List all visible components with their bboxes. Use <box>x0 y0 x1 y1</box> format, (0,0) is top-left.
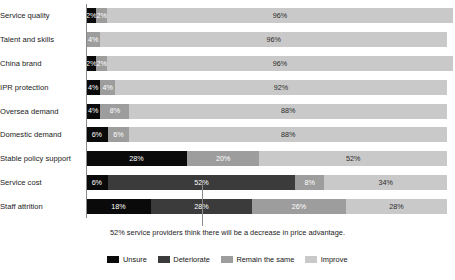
bar-segment-label: 28% <box>389 203 403 210</box>
bar-segment: 2% <box>86 56 96 71</box>
bar-segment-label: 6% <box>113 131 123 138</box>
bar-segment: 20% <box>187 151 259 166</box>
bar-segment: 96% <box>107 8 454 23</box>
annotation-text: 52% service providers think there will b… <box>0 228 455 237</box>
category-label: China brand <box>0 59 86 68</box>
category-label: Talent and skills <box>0 35 86 44</box>
bar-segment-label: 8% <box>110 107 120 114</box>
bar-segment: 4% <box>86 80 100 95</box>
bar-segment-label: 4% <box>88 36 98 43</box>
bar-segment: 6% <box>86 175 108 190</box>
bar-segment-label: 2% <box>96 60 106 67</box>
legend-swatch-icon <box>158 256 170 263</box>
bar-segment: 92% <box>115 80 447 95</box>
bar-segment-label: 6% <box>92 131 102 138</box>
legend-item[interactable]: Improve <box>305 255 347 264</box>
bar-segment-label: 4% <box>88 107 98 114</box>
bar-segment: 2% <box>86 8 96 23</box>
chart-row: Service quality2%2%96% <box>0 4 455 28</box>
bar-segment: 96% <box>100 32 447 47</box>
legend-item[interactable]: Unsure <box>107 255 146 264</box>
legend-swatch-icon <box>305 256 317 263</box>
bar-segment-label: 34% <box>378 179 392 186</box>
bar-segment-label: 88% <box>281 107 295 114</box>
chart-legend: UnsureDeteriorateRemain the sameImprove <box>0 255 455 264</box>
bar-segment-label: 6% <box>92 179 102 186</box>
category-label: Stable policy support <box>0 154 86 163</box>
bar-segment-label: 28% <box>129 155 143 162</box>
category-label: Domestic demand <box>0 130 86 139</box>
category-label: Service cost <box>0 178 86 187</box>
legend-swatch-icon <box>221 256 233 263</box>
legend-swatch-icon <box>107 256 119 263</box>
bar-segment: 8% <box>100 104 129 119</box>
stacked-bar: 28%20%52% <box>86 151 447 166</box>
bar-segment: 6% <box>86 127 108 142</box>
chart-row: China brand2%2%96% <box>0 52 455 76</box>
bar-segment-label: 92% <box>274 84 288 91</box>
legend-label: Remain the same <box>236 255 294 264</box>
chart-row: IPR protection4%4%92% <box>0 75 455 99</box>
bar-segment: 4% <box>86 104 100 119</box>
plot-area: Service quality2%2%96%Talent and skills4… <box>0 4 455 218</box>
bar-segment-label: 26% <box>292 203 306 210</box>
bar-segment-label: 18% <box>111 203 125 210</box>
category-label: Service quality <box>0 11 86 20</box>
chart-row: Service cost6%52%8%34% <box>0 171 455 195</box>
category-label: IPR protection <box>0 83 86 92</box>
bar-segment-label: 2% <box>86 12 96 19</box>
legend-label: Deteriorate <box>173 255 210 264</box>
chart-row: Talent and skills4%96% <box>0 28 455 52</box>
stacked-bar: 2%2%96% <box>86 8 447 23</box>
bar-segment-label: 4% <box>88 84 98 91</box>
bar-segment: 2% <box>96 56 106 71</box>
bar-segment: 26% <box>252 199 346 214</box>
stacked-bar: 4%4%92% <box>86 80 447 95</box>
bar-segment-label: 96% <box>273 12 287 19</box>
bar-segment: 28% <box>86 151 187 166</box>
bar-segment-label: 96% <box>267 36 281 43</box>
bar-segment-label: 2% <box>86 60 96 67</box>
stacked-bar-chart: Service quality2%2%96%Talent and skills4… <box>0 0 455 280</box>
bar-segment: 28% <box>346 199 447 214</box>
legend-item[interactable]: Remain the same <box>221 255 294 264</box>
bar-segment-label: 20% <box>216 155 230 162</box>
legend-item[interactable]: Deteriorate <box>158 255 210 264</box>
stacked-bar: 4%96% <box>86 32 447 47</box>
bar-segment: 4% <box>100 80 114 95</box>
annotation-leader-line <box>202 182 203 226</box>
category-label: Oversea demand <box>0 107 86 116</box>
bar-segment-label: 96% <box>273 60 287 67</box>
bar-segment: 88% <box>129 104 447 119</box>
bar-segment-label: 52% <box>346 155 360 162</box>
bar-segment: 52% <box>259 151 447 166</box>
bar-segment: 34% <box>324 175 447 190</box>
chart-row: Domestic demand6%6%88% <box>0 123 455 147</box>
bar-segment: 88% <box>129 127 447 142</box>
stacked-bar: 6%52%8%34% <box>86 175 447 190</box>
bar-segment: 4% <box>86 32 100 47</box>
stacked-bar: 18%28%26%28% <box>86 199 447 214</box>
bar-segment-label: 4% <box>102 84 112 91</box>
stacked-bar: 2%2%96% <box>86 56 447 71</box>
bar-segment-label: 2% <box>96 12 106 19</box>
bar-segment: 8% <box>295 175 324 190</box>
stacked-bar: 6%6%88% <box>86 127 447 142</box>
bar-segment: 2% <box>96 8 106 23</box>
bar-segment-label: 88% <box>281 131 295 138</box>
legend-label: Improve <box>321 255 348 264</box>
stacked-bar: 4%8%88% <box>86 104 447 119</box>
category-label: Staff attrition <box>0 202 86 211</box>
chart-row: Stable policy support28%20%52% <box>0 147 455 171</box>
bar-segment: 6% <box>108 127 130 142</box>
chart-row: Oversea demand4%8%88% <box>0 99 455 123</box>
bar-segment: 18% <box>86 199 151 214</box>
y-axis-spine <box>86 4 87 218</box>
bar-segment: 96% <box>107 56 454 71</box>
chart-row: Staff attrition18%28%26%28% <box>0 194 455 218</box>
legend-label: Unsure <box>123 255 147 264</box>
bar-segment-label: 8% <box>305 179 315 186</box>
